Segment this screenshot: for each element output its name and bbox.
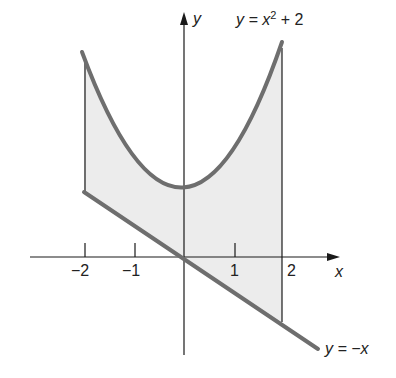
tick-label-1: 1 xyxy=(230,262,239,280)
y-axis-arrow-icon xyxy=(180,12,188,25)
x-axis-label: x xyxy=(335,263,343,281)
parabola-equation-main: y = x xyxy=(236,11,270,28)
chart-canvas xyxy=(0,0,396,378)
shaded-region xyxy=(84,45,282,322)
tick-label-m2: −2 xyxy=(71,262,89,280)
x-axis-arrow-icon xyxy=(327,253,340,261)
y-axis-label: y xyxy=(193,10,201,28)
tick-label-2: 2 xyxy=(287,262,296,280)
parabola-equation-label: y = x2 + 2 xyxy=(236,9,304,29)
parabola-equation-tail: + 2 xyxy=(276,11,303,28)
tick-label-m1: −1 xyxy=(122,262,140,280)
line-equation-label: y = −x xyxy=(325,340,369,358)
